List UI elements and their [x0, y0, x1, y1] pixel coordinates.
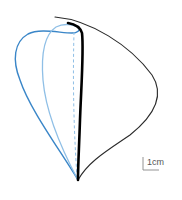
shape-outline-diagram: 1cm — [0, 0, 182, 200]
scale-bar-label: 1cm — [147, 157, 164, 167]
thick-black-outline — [68, 23, 83, 180]
scale-bar: 1cm — [143, 157, 164, 170]
outer-thin-black-outline — [55, 17, 158, 180]
light-blue-outline — [42, 25, 80, 180]
dashed-blue-midline — [73, 32, 77, 176]
